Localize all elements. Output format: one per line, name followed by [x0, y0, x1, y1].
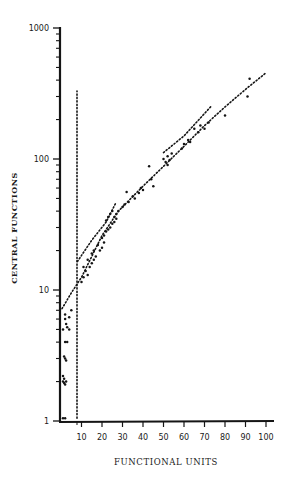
- x-tick-label: 10: [76, 433, 86, 442]
- data-point: [168, 159, 171, 162]
- data-points: [62, 77, 251, 419]
- data-point: [109, 213, 112, 216]
- data-point: [105, 219, 108, 222]
- data-point: [63, 355, 66, 358]
- x-tick-label: 80: [220, 433, 230, 442]
- y-tick-label: 10: [39, 286, 49, 295]
- data-point: [91, 252, 94, 255]
- data-point: [162, 158, 165, 161]
- data-point: [64, 417, 67, 420]
- data-point: [115, 213, 118, 216]
- upper-trend-line: [77, 202, 116, 262]
- data-point: [111, 210, 114, 213]
- data-point: [64, 318, 67, 321]
- x-tick-label: 20: [97, 433, 107, 442]
- data-point: [224, 114, 227, 117]
- x-tick-label: 70: [199, 433, 209, 442]
- data-point: [123, 203, 126, 206]
- data-point: [99, 249, 102, 252]
- data-point: [62, 375, 65, 378]
- data-point: [127, 201, 130, 204]
- data-point: [125, 191, 128, 194]
- data-point: [64, 313, 67, 316]
- data-point: [82, 276, 85, 279]
- data-point: [152, 185, 155, 188]
- data-point: [199, 124, 202, 127]
- data-point: [91, 262, 94, 265]
- data-point: [84, 270, 87, 273]
- data-point: [134, 197, 137, 200]
- data-point: [121, 206, 124, 209]
- scatter-chart: 1101001000 102030405060708090100 FUNCTIO…: [0, 0, 291, 485]
- y-axis: 1101001000: [29, 24, 60, 426]
- data-point: [132, 195, 135, 198]
- data-point: [107, 228, 110, 231]
- data-point: [101, 247, 104, 250]
- data-point: [248, 77, 251, 80]
- upper-trend-2-line: [164, 107, 211, 153]
- data-point: [187, 139, 190, 142]
- data-point: [107, 216, 110, 219]
- data-point: [62, 328, 65, 331]
- data-point: [86, 259, 89, 262]
- data-point: [111, 223, 114, 226]
- y-tick-label: 100: [34, 155, 49, 164]
- x-axis-title: FUNCTIONAL UNITS: [114, 457, 218, 467]
- data-point: [68, 328, 71, 331]
- data-point: [63, 378, 66, 381]
- dotted-lines: [62, 73, 266, 418]
- data-point: [117, 210, 120, 213]
- data-point: [166, 155, 169, 158]
- x-axis-line: [59, 421, 274, 422]
- x-tick-label: 90: [240, 433, 250, 442]
- data-point: [183, 143, 186, 146]
- data-point: [246, 95, 249, 98]
- data-point: [170, 152, 173, 155]
- data-point: [105, 230, 108, 233]
- data-point: [86, 274, 89, 277]
- data-point: [138, 192, 141, 195]
- data-point: [80, 281, 83, 284]
- data-point: [101, 237, 104, 240]
- data-point: [66, 341, 69, 344]
- data-point: [95, 255, 98, 258]
- data-point: [66, 326, 69, 329]
- data-point: [93, 259, 96, 262]
- x-tick-label: 40: [138, 433, 148, 442]
- data-point: [88, 266, 91, 269]
- data-point: [109, 226, 112, 229]
- data-point: [203, 128, 206, 131]
- data-point: [65, 323, 68, 326]
- data-point: [166, 164, 169, 167]
- data-point: [140, 187, 143, 190]
- data-point: [65, 359, 68, 362]
- data-point: [68, 316, 71, 319]
- x-tick-label: 100: [258, 433, 273, 442]
- data-point: [142, 189, 145, 192]
- x-tick-label: 50: [158, 433, 168, 442]
- data-point: [164, 161, 167, 164]
- x-axis: 102030405060708090100: [59, 421, 274, 442]
- data-point: [193, 128, 196, 131]
- data-point: [197, 131, 200, 134]
- y-axis-title: CENTRAL FUNCTIONS: [9, 172, 19, 284]
- data-point: [181, 147, 184, 150]
- data-point: [93, 249, 96, 252]
- data-point: [207, 121, 210, 124]
- data-point: [103, 234, 106, 237]
- data-point: [115, 217, 118, 220]
- data-point: [150, 178, 153, 181]
- data-point: [82, 266, 85, 269]
- data-point: [70, 309, 73, 312]
- data-point: [113, 221, 116, 224]
- x-tick-label: 60: [179, 433, 189, 442]
- data-point: [103, 241, 106, 244]
- x-tick-label: 30: [117, 433, 127, 442]
- data-point: [189, 141, 192, 144]
- data-point: [113, 216, 116, 219]
- data-point: [97, 244, 100, 247]
- lower-trend-line: [62, 73, 266, 309]
- data-point: [148, 165, 151, 168]
- y-tick-label: 1: [44, 417, 49, 426]
- data-point: [63, 382, 66, 385]
